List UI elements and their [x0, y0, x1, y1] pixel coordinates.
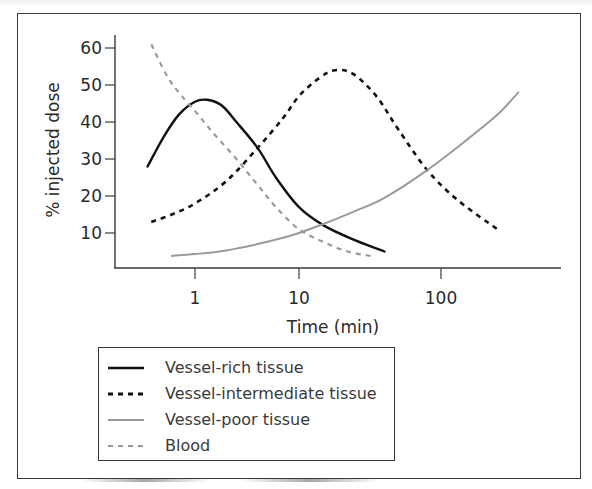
y-ticks: 60 50 40 30 20 10 — [80, 38, 115, 243]
x-tick-label-1: 1 — [190, 288, 201, 308]
legend-label: Vessel-poor tissue — [165, 408, 310, 432]
solid-black-line-icon — [107, 360, 145, 376]
series-vessel-intermediate-tissue — [151, 70, 497, 229]
legend-label: Blood — [165, 434, 210, 458]
legend-item-vessel-intermediate: Vessel-intermediate tissue — [99, 382, 394, 408]
y-tick-label-50: 50 — [80, 75, 102, 95]
legend-label: Vessel-rich tissue — [165, 356, 304, 380]
legend-item-vessel-poor: Vessel-poor tissue — [99, 408, 394, 434]
series-vessel-rich-tissue — [148, 99, 385, 251]
y-tick-label-40: 40 — [80, 112, 102, 132]
solid-gray-line-icon — [107, 412, 145, 428]
dashed-gray-line-icon — [107, 438, 145, 454]
legend-item-blood: Blood — [99, 434, 394, 460]
legend-item-vessel-rich: Vessel-rich tissue — [99, 356, 394, 382]
y-tick-label-20: 20 — [80, 186, 102, 206]
legend-label: Vessel-intermediate tissue — [165, 382, 377, 406]
x-axis-title: Time (min) — [286, 317, 379, 337]
series-vessel-poor-tissue — [172, 92, 518, 256]
chart-legend: Vessel-rich tissue Vessel-intermediate t… — [98, 347, 395, 461]
bottom-shadow-right — [240, 479, 380, 482]
x-tick-label-10: 10 — [288, 288, 310, 308]
y-tick-label-10: 10 — [80, 223, 102, 243]
bottom-shadow-left — [80, 479, 210, 482]
y-tick-label-30: 30 — [80, 149, 102, 169]
y-tick-label-60: 60 — [80, 38, 102, 58]
dashed-black-line-icon — [107, 386, 145, 402]
x-tick-label-100: 100 — [425, 288, 457, 308]
series-blood — [151, 44, 370, 256]
x-ticks: 1 10 100 — [190, 268, 458, 308]
y-axis-title: % injected dose — [43, 82, 63, 217]
